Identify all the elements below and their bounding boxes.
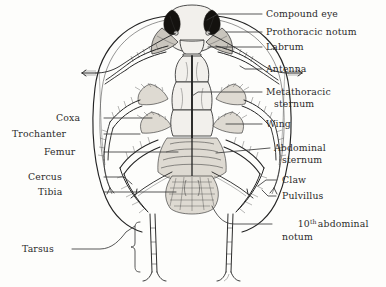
label-antenna: Antenna (265, 63, 307, 74)
leader-tenth-abdominal-notum (212, 206, 272, 224)
label-trochanter: Trochanter (12, 128, 67, 139)
label-wing: Wing (266, 118, 291, 129)
label-coxa: Coxa (56, 112, 80, 123)
label-tarsus: Tarsus (22, 243, 54, 254)
label-abdominal-sternum-line1: Abdominal (273, 142, 326, 153)
label-tenth-rest: abdominal (318, 218, 369, 229)
label-tenth-abdominal-notum: 10thabdominal (276, 218, 384, 229)
label-tenth-superscript: th (310, 218, 317, 225)
leader-tarsus (72, 226, 135, 249)
label-abdominal-sternum-line2: sternum (282, 154, 322, 165)
label-femur: Femur (44, 146, 76, 157)
label-metathoracic-sternum-line2: sternum (274, 98, 314, 109)
middle-left-leg (98, 97, 142, 194)
leader-claw (258, 180, 276, 186)
label-claw: Claw (282, 174, 306, 185)
label-labrum: Labrum (266, 41, 304, 52)
label-tenth-abdominal-notum-line2: notum (282, 231, 313, 242)
leader-pulvillus (262, 190, 276, 196)
label-metathoracic-sternum-line1: Metathoracic (266, 86, 331, 97)
label-group-right: Compound eye Prothoracic notum Labrum An… (265, 8, 384, 242)
label-tibia: Tibia (38, 186, 63, 197)
label-prothoracic-notum: Prothoracic notum (266, 26, 357, 37)
abdomen (158, 136, 226, 214)
label-tenth-number: 10 (298, 218, 310, 229)
label-cercus: Cercus (28, 171, 62, 182)
label-compound-eye: Compound eye (266, 8, 338, 19)
thorax (135, 56, 249, 140)
label-pulvillus: Pulvillus (282, 190, 324, 201)
label-group-left: Coxa Trochanter Femur Cercus Tibia Tarsu… (12, 112, 80, 254)
cockroach-ventral-diagram: Compound eye Prothoracic notum Labrum An… (0, 0, 386, 287)
